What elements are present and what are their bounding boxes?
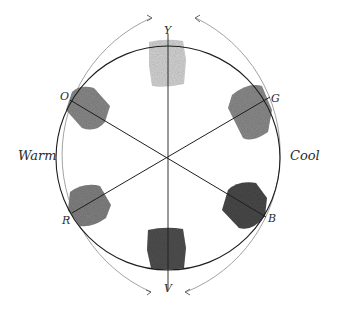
color-wheel-diagram: Y V O G R B Warm Cool <box>0 0 337 311</box>
arrowhead-cool-bottom <box>185 289 190 295</box>
label-r: R <box>61 214 70 227</box>
label-y: Y <box>164 24 173 37</box>
warm-arc-arrow <box>62 18 151 292</box>
cool-arc-arrow <box>186 18 280 292</box>
label-cool: Cool <box>290 148 320 163</box>
arrowhead-warm-top <box>147 15 152 21</box>
label-g: G <box>271 92 280 105</box>
swatch-green <box>228 85 272 140</box>
swatch-violet <box>147 228 186 270</box>
swatch-orange <box>66 87 110 130</box>
label-b: B <box>267 212 276 225</box>
label-v: V <box>164 282 173 295</box>
label-warm: Warm <box>18 148 57 163</box>
label-o: O <box>60 90 69 103</box>
arrowhead-warm-bottom <box>146 290 151 295</box>
